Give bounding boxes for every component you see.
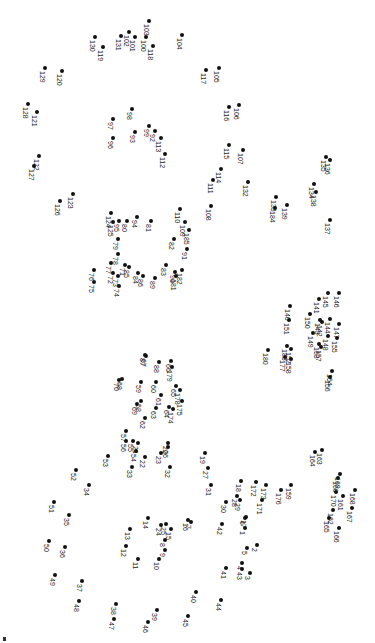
dot-number-label: 116 <box>223 110 230 121</box>
puzzle-dot <box>180 33 184 37</box>
dot-number-label: 37 <box>76 584 83 592</box>
puzzle-dot <box>133 35 137 39</box>
dot-number-label: 29 <box>234 503 241 511</box>
puzzle-dot <box>319 345 323 349</box>
puzzle-dot <box>135 215 139 219</box>
puzzle-dot <box>317 297 321 301</box>
dot-number-label: 163 <box>316 453 323 465</box>
dot-number-label: 149 <box>307 336 314 348</box>
dot-number-label: 150 <box>304 317 311 329</box>
puzzle-dot <box>337 322 341 326</box>
puzzle-dot <box>116 252 120 256</box>
puzzle-dot <box>146 516 150 520</box>
dot-number-label: 96 <box>107 141 114 149</box>
dot-number-label: 19 <box>199 456 206 464</box>
puzzle-dot <box>128 527 132 531</box>
puzzle-dot <box>328 158 332 162</box>
dot-number-label: 22 <box>139 460 146 468</box>
dot-number-label: 179 <box>166 370 173 382</box>
dot-number-label: 138 <box>310 195 317 207</box>
dot-number-label: 155 <box>331 341 338 353</box>
dot-number-label: 95 <box>113 224 120 232</box>
dot-number-label: 98 <box>126 112 133 120</box>
dot-number-label: 167 <box>346 511 353 523</box>
dot-number-label: 11 <box>132 562 139 569</box>
puzzle-dot <box>264 483 268 487</box>
dot-number-label: 81 <box>145 224 152 232</box>
dot-number-label: 127 <box>28 169 35 181</box>
dot-number-label: 60 <box>150 385 157 393</box>
puzzle-dot <box>106 454 110 458</box>
dot-number-label: 177 <box>279 360 286 372</box>
puzzle-dot <box>288 304 292 308</box>
puzzle-dot <box>153 129 157 133</box>
dot-number-label: 136 <box>324 163 331 175</box>
puzzle-dot <box>135 402 139 406</box>
puzzle-dot <box>159 136 163 140</box>
puzzle-dot <box>111 117 115 121</box>
puzzle-dot <box>101 45 105 49</box>
puzzle-dot <box>117 284 121 288</box>
dot-number-label: 120 <box>56 74 63 86</box>
puzzle-dot <box>186 614 190 618</box>
puzzle-dot <box>337 526 341 530</box>
dot-number-label: 70 <box>113 383 120 391</box>
dot-number-label: 23 <box>155 456 162 464</box>
puzzle-dot <box>274 195 278 199</box>
dot-number-label: 101 <box>129 40 136 52</box>
dot-number-label: 2 <box>251 548 258 552</box>
dot-number-label: 75 <box>88 285 95 293</box>
puzzle-dot <box>289 483 293 487</box>
dot-number-label: 32 <box>164 470 171 478</box>
puzzle-dot <box>254 480 258 484</box>
dot-number-label: 78 <box>112 257 119 265</box>
puzzle-dot <box>289 357 293 361</box>
puzzle-dot <box>166 445 170 449</box>
dot-number-label: 17 <box>240 520 247 528</box>
dot-number-label: 63 <box>150 411 157 419</box>
puzzle-dot <box>180 268 184 272</box>
puzzle-dot <box>308 312 312 316</box>
puzzle-dot <box>248 571 252 575</box>
puzzle-dot <box>341 494 345 498</box>
puzzle-dot <box>238 498 242 502</box>
dot-number-label: 141 <box>313 302 320 314</box>
puzzle-dot <box>35 110 39 114</box>
puzzle-dot <box>143 353 147 357</box>
puzzle-dot <box>74 468 78 472</box>
dot-number-label: 165 <box>323 521 330 533</box>
dot-number-label: 143 <box>314 323 321 335</box>
dot-number-label: 148 <box>322 339 329 351</box>
dot-number-label: 12 <box>120 549 127 557</box>
puzzle-dot <box>224 566 228 570</box>
puzzle-dot <box>204 68 208 72</box>
puzzle-dot <box>117 378 121 382</box>
puzzle-dot <box>168 465 172 469</box>
dot-number-label: 88 <box>153 365 160 373</box>
dot-number-label: 104 <box>176 38 183 50</box>
puzzle-dot <box>155 608 159 612</box>
puzzle-dot <box>125 219 129 223</box>
puzzle-dot <box>124 544 128 548</box>
puzzle-dot <box>111 220 115 224</box>
dot-number-label: 39 <box>151 613 158 621</box>
puzzle-dot <box>116 237 120 241</box>
puzzle-dot <box>147 124 151 128</box>
puzzle-dot <box>328 375 332 379</box>
dot-number-label: 38 <box>110 607 117 615</box>
puzzle-dot <box>172 237 176 241</box>
dot-number-label: 146 <box>333 296 340 308</box>
dot-number-label: 93 <box>129 135 136 143</box>
dot-number-label: 121 <box>31 115 38 127</box>
dot-number-label: 30 <box>220 505 227 513</box>
puzzle-dot <box>194 590 198 594</box>
dot-number-label: 82 <box>168 242 175 250</box>
puzzle-dot <box>116 274 120 278</box>
puzzle-dot <box>326 291 330 295</box>
dot-number-label: 18 <box>235 484 242 492</box>
puzzle-dot <box>53 573 57 577</box>
dot-number-label: 44 <box>215 603 222 611</box>
dot-number-label: 158 <box>285 362 292 374</box>
puzzle-dot <box>318 318 322 322</box>
dot-number-label: 40 <box>190 595 197 603</box>
